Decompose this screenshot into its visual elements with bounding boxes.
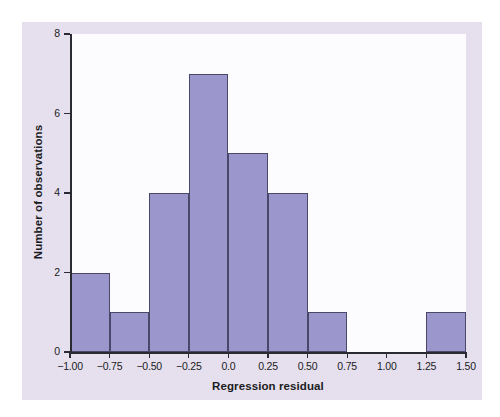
y-tick-label: 8 [44, 27, 60, 39]
y-tick-label: 4 [44, 186, 60, 198]
x-tick-mark [347, 352, 348, 358]
y-axis-title: Number of observations [32, 92, 44, 292]
figure-canvas: −1.00−0.75−0.50−0.250.00.250.500.751.001… [0, 0, 500, 417]
y-tick-label: 2 [44, 266, 60, 278]
x-tick-mark [69, 352, 70, 358]
y-tick-label: 6 [44, 107, 60, 119]
x-tick-mark [228, 352, 229, 358]
x-tick-mark [465, 352, 466, 358]
x-tick-label: 1.50 [443, 360, 489, 372]
y-tick-mark [64, 272, 70, 273]
y-tick-mark [64, 351, 70, 352]
y-tick-label: 0 [44, 345, 60, 357]
y-tick-mark [64, 113, 70, 114]
x-tick-mark [109, 352, 110, 358]
x-tick-mark [267, 352, 268, 358]
x-tick-mark [307, 352, 308, 358]
y-axis-line [70, 34, 72, 353]
x-tick-mark [149, 352, 150, 358]
y-tick-mark [64, 192, 70, 193]
x-tick-mark [386, 352, 387, 358]
x-axis-title: Regression residual [70, 380, 466, 392]
x-tick-mark [426, 352, 427, 358]
y-tick-mark [64, 33, 70, 34]
x-tick-mark [188, 352, 189, 358]
plot-area-background [70, 34, 466, 352]
